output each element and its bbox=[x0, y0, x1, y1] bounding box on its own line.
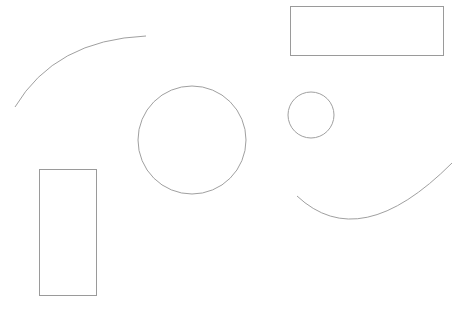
top-right-rectangle bbox=[291, 7, 444, 56]
bottom-right-arc bbox=[297, 163, 452, 219]
large-circle bbox=[138, 86, 246, 194]
small-circle bbox=[288, 92, 334, 138]
bottom-left-rectangle bbox=[40, 170, 97, 296]
drawing-canvas bbox=[0, 0, 472, 314]
top-left-arc bbox=[15, 36, 146, 107]
